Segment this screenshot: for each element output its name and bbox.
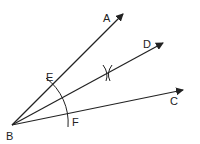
label-d: D (143, 39, 151, 50)
label-c: C (170, 96, 178, 107)
label-a: A (103, 13, 110, 24)
label-f: F (72, 117, 79, 128)
diagram-canvas (0, 0, 200, 144)
label-e: E (46, 72, 53, 83)
arc-ef (46, 78, 68, 127)
bisector-diagram: A D C E F B (0, 0, 200, 144)
ray-bd (12, 43, 163, 125)
ray-ba (12, 14, 123, 125)
ray-bc (12, 90, 183, 125)
label-b: B (6, 131, 13, 142)
